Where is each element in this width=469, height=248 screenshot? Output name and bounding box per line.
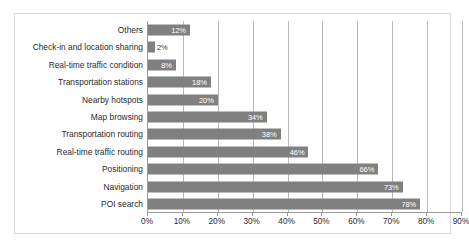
bar-row: Real-time traffic condition8% (148, 56, 462, 73)
bar-value-label: 2% (157, 43, 168, 52)
x-axis: 0%10%20%30%40%50%60%70%80%90% (147, 213, 462, 229)
category-label: Positioning (102, 164, 143, 174)
plot-area: Others12%Check-in and location sharing2%… (147, 21, 462, 213)
x-tick-mark (217, 213, 218, 216)
bar[interactable] (148, 164, 378, 175)
bar-row: POI search78% (148, 196, 462, 213)
bar-value-label: 46% (290, 147, 305, 156)
x-tick-label: 70% (383, 217, 399, 226)
category-label: Real-time traffic routing (57, 147, 143, 157)
x-tick-label: 20% (209, 217, 225, 226)
bar[interactable] (148, 146, 308, 157)
bar-value-label: 73% (384, 182, 399, 191)
x-tick-label: 30% (243, 217, 259, 226)
category-label: Map browsing (91, 112, 143, 122)
bar[interactable] (148, 181, 403, 192)
bar-row: Transportation routing38% (148, 126, 462, 143)
x-tick-label: 10% (174, 217, 190, 226)
x-tick-mark (182, 213, 183, 216)
bar-rows: Others12%Check-in and location sharing2%… (148, 21, 462, 212)
x-tick-mark (287, 213, 288, 216)
bar-value-label: 38% (262, 130, 277, 139)
x-tick-mark (391, 213, 392, 216)
x-tick-label: 80% (418, 217, 434, 226)
category-label: Check-in and location sharing (33, 42, 143, 52)
x-tick-label: 60% (348, 217, 364, 226)
x-tick-mark (252, 213, 253, 216)
bar-value-label: 34% (248, 112, 263, 121)
x-tick-mark (147, 213, 148, 216)
category-label: Others (118, 25, 143, 35)
bar-value-label: 66% (360, 165, 375, 174)
category-label: Navigation (103, 182, 143, 192)
bar-value-label: 8% (161, 60, 172, 69)
bar-row: Transportation stations18% (148, 73, 462, 90)
x-tick-label: 50% (313, 217, 329, 226)
bar[interactable] (148, 129, 281, 140)
bar-row: Nearby hotspots20% (148, 91, 462, 108)
bar-row: Positioning66% (148, 161, 462, 178)
bar[interactable] (148, 199, 420, 210)
category-label: POI search (101, 199, 143, 209)
bar-row: Map browsing34% (148, 108, 462, 125)
bar-row: Real-time traffic routing46% (148, 143, 462, 160)
x-tick-label: 0% (141, 217, 153, 226)
bar[interactable] (148, 42, 155, 53)
x-tick-mark (426, 213, 427, 216)
bar-row: Others12% (148, 21, 462, 38)
category-label: Transportation stations (58, 77, 143, 87)
gridline-90 (462, 21, 463, 212)
x-tick-mark (356, 213, 357, 216)
x-tick-label: 40% (278, 217, 294, 226)
bar-row: Check-in and location sharing2% (148, 38, 462, 55)
bar-row: Navigation73% (148, 178, 462, 195)
category-label: Nearby hotspots (82, 95, 143, 105)
bar-value-label: 20% (199, 95, 214, 104)
bar-value-label: 12% (171, 25, 186, 34)
bar-value-label: 18% (192, 78, 207, 87)
x-tick-mark (321, 213, 322, 216)
category-label: Real-time traffic condition (49, 60, 143, 70)
x-tick-mark (461, 213, 462, 216)
category-label: Transportation routing (61, 129, 143, 139)
chart-frame: Others12%Check-in and location sharing2%… (14, 13, 451, 234)
x-tick-label: 90% (453, 217, 469, 226)
bar-value-label: 78% (401, 200, 416, 209)
